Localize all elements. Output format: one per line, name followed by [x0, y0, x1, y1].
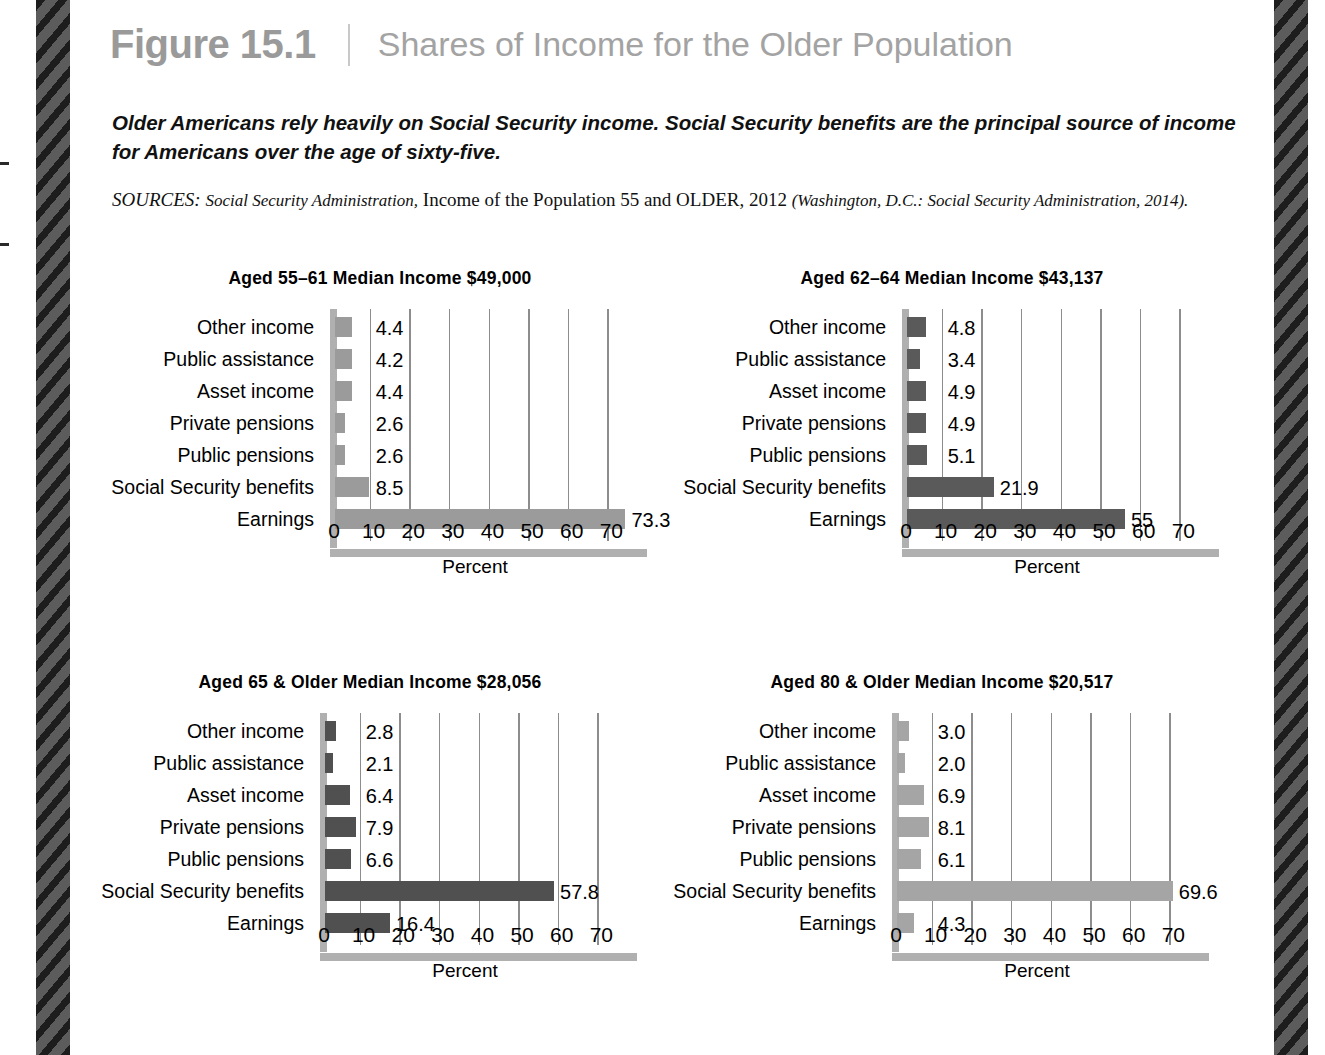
- x-axis-tick-label: 40: [1053, 520, 1076, 541]
- bar: [335, 413, 345, 433]
- bar: [325, 721, 336, 741]
- header-divider: [348, 24, 350, 66]
- x-axis-tick-label: 20: [392, 924, 415, 945]
- x-axis-title: Percent: [892, 960, 1182, 982]
- category-label: Public assistance: [735, 350, 886, 370]
- gridline: [971, 713, 973, 945]
- x-axis-tick-label: 70: [1162, 924, 1185, 945]
- page-edge-tick: [0, 243, 9, 246]
- category-label: Public pensions: [167, 850, 304, 870]
- category-label: Social Security benefits: [683, 478, 886, 498]
- bar: [907, 317, 926, 337]
- x-axis-tick-label: 30: [1003, 924, 1026, 945]
- x-axis-ticks: 010203040506070: [330, 520, 660, 546]
- x-axis-tick-label: 20: [964, 924, 987, 945]
- page-edge-tick: [0, 162, 9, 165]
- gridline: [518, 713, 520, 945]
- gridline: [489, 309, 491, 541]
- sources-work: Income of the Population 55 and OLDER, 2…: [423, 189, 787, 210]
- bar: [907, 413, 926, 433]
- decorative-stripe-left: [36, 0, 70, 1055]
- gridline: [399, 713, 401, 945]
- bar-value-label: 2.6: [376, 414, 404, 434]
- bar-value-label: 7.9: [366, 818, 394, 838]
- bar: [907, 349, 920, 369]
- category-label: Private pensions: [170, 414, 314, 434]
- category-label: Asset income: [769, 382, 886, 402]
- gridline: [1051, 713, 1053, 945]
- gridline: [1130, 713, 1132, 945]
- category-label: Social Security benefits: [101, 882, 304, 902]
- bar-value-label: 2.0: [938, 754, 966, 774]
- bar: [897, 881, 1173, 901]
- gridline: [1100, 309, 1102, 541]
- x-axis-tick-label: 0: [900, 520, 912, 541]
- category-label-column: Other incomePublic assistanceAsset incom…: [100, 309, 322, 557]
- category-label-column: Other incomePublic assistanceAsset incom…: [672, 309, 894, 557]
- bar: [325, 753, 333, 773]
- bar-value-label: 4.4: [376, 382, 404, 402]
- gridline: [1179, 309, 1181, 541]
- sources-label: SOURCES:: [112, 189, 201, 210]
- chart-panel-aged-62-64: Aged 62–64 Median Income $43,137Other in…: [672, 268, 1232, 557]
- x-axis-tick-label: 70: [600, 520, 623, 541]
- bar: [335, 477, 369, 497]
- bar-value-label: 69.6: [1179, 882, 1218, 902]
- gridline: [942, 309, 944, 541]
- category-label: Public pensions: [739, 850, 876, 870]
- x-axis-title: Percent: [330, 556, 620, 578]
- gridline: [1011, 713, 1013, 945]
- bar-value-label: 4.8: [948, 318, 976, 338]
- category-label: Social Security benefits: [673, 882, 876, 902]
- figure-sources: SOURCES: Social Security Administration,…: [112, 186, 1252, 215]
- x-axis-tick-label: 20: [402, 520, 425, 541]
- bar-value-label: 8.1: [938, 818, 966, 838]
- bar: [897, 785, 924, 805]
- gridline: [607, 309, 609, 541]
- x-axis-tick-label: 30: [441, 520, 464, 541]
- x-axis-tick-label: 40: [471, 924, 494, 945]
- bar-value-label: 6.1: [938, 850, 966, 870]
- category-label: Private pensions: [732, 818, 876, 838]
- x-axis-tick-label: 60: [1132, 520, 1155, 541]
- x-axis-tick-label: 50: [510, 924, 533, 945]
- chart-panel-aged-55-61: Aged 55–61 Median Income $49,000Other in…: [100, 268, 660, 557]
- x-axis-title: Percent: [320, 960, 610, 982]
- gridline: [479, 713, 481, 945]
- gridline: [370, 309, 372, 541]
- gridline: [932, 713, 934, 945]
- bar-value-label: 4.2: [376, 350, 404, 370]
- bar-value-label: 8.5: [376, 478, 404, 498]
- x-axis-tick-label: 60: [1122, 924, 1145, 945]
- category-label: Social Security benefits: [111, 478, 314, 498]
- gridline: [409, 309, 411, 541]
- x-axis-tick-label: 40: [1043, 924, 1066, 945]
- x-axis-tick-label: 10: [934, 520, 957, 541]
- category-label-column: Other incomePublic assistanceAsset incom…: [90, 713, 312, 961]
- sources-publication: (Washington, D.C.: Social Security Admin…: [792, 191, 1189, 210]
- chart-title: Aged 55–61 Median Income $49,000: [100, 268, 660, 289]
- category-label: Earnings: [237, 510, 314, 530]
- category-label: Public assistance: [153, 754, 304, 774]
- bar: [907, 477, 994, 497]
- category-label: Other income: [187, 722, 304, 742]
- x-axis-tick-label: 70: [1172, 520, 1195, 541]
- bar: [335, 317, 352, 337]
- category-label: Public pensions: [749, 446, 886, 466]
- category-label: Public assistance: [163, 350, 314, 370]
- bar-value-label: 3.4: [948, 350, 976, 370]
- gridline: [1140, 309, 1142, 541]
- gridline: [528, 309, 530, 541]
- gridline: [439, 713, 441, 945]
- bar-value-label: 21.9: [1000, 478, 1039, 498]
- x-axis-tick-label: 10: [924, 924, 947, 945]
- category-label: Asset income: [759, 786, 876, 806]
- category-label: Other income: [759, 722, 876, 742]
- bar-value-label: 2.8: [366, 722, 394, 742]
- x-axis-tick-label: 40: [481, 520, 504, 541]
- chart-panel-aged-65-older: Aged 65 & Older Median Income $28,056Oth…: [90, 672, 650, 961]
- bar-value-label: 2.6: [376, 446, 404, 466]
- figure-header: Figure 15.1 Shares of Income for the Old…: [110, 22, 1013, 67]
- gridline: [981, 309, 983, 541]
- x-axis-ticks: 010203040506070: [320, 924, 650, 950]
